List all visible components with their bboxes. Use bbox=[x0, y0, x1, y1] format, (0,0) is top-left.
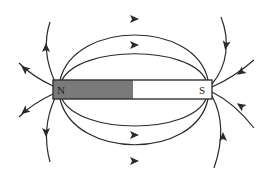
bar-magnet-diagram: N S bbox=[0, 0, 269, 178]
south-pole-label: S bbox=[199, 84, 205, 96]
north-pole bbox=[53, 80, 133, 99]
north-pole-label: N bbox=[57, 84, 65, 96]
bar-magnet: N S bbox=[53, 80, 212, 99]
field-diagram-svg: N S bbox=[0, 0, 269, 178]
